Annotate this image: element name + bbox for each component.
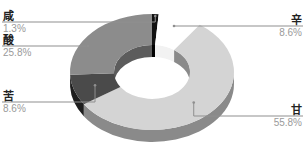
slice-label-percent: 8.6% [3, 103, 26, 114]
slice-label-name: 甘 [291, 103, 302, 117]
leader-dot-3 [94, 84, 97, 87]
donut-chart: 咸1.3%辛8.6%甘55.8%苦8.6%酸25.8% [0, 0, 305, 159]
slice-label-percent: 55.8% [274, 117, 302, 128]
slice-label-name: 酸 [3, 33, 15, 47]
slice-4[interactable] [70, 14, 152, 75]
leader-dot-1 [173, 25, 176, 28]
leader-dot-4 [87, 45, 90, 48]
leader-dot-0 [154, 15, 157, 18]
donut-slices [70, 14, 234, 130]
slice-label-name: 辛 [291, 13, 302, 27]
slice-label-name: 苦 [3, 89, 14, 103]
slice-label-percent: 1.3% [3, 23, 26, 34]
slice-inner-wall-0 [152, 45, 155, 57]
slice-label-percent: 25.8% [3, 47, 31, 58]
slice-label-name: 咸 [3, 9, 14, 23]
slice-label-percent: 8.6% [279, 27, 302, 38]
leader-dot-2 [192, 101, 195, 104]
